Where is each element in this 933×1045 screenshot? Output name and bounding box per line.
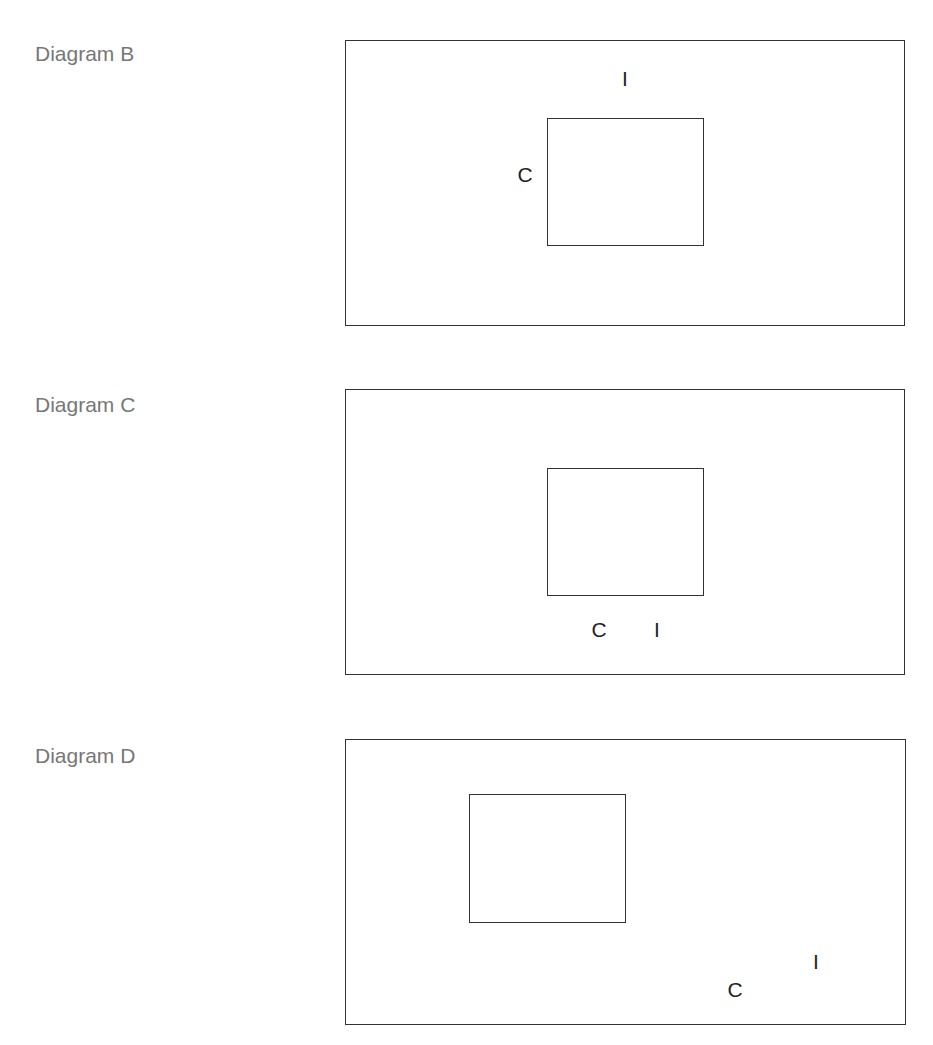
diagram-b-marker-c: C bbox=[517, 164, 532, 185]
diagram-b-label: Diagram B bbox=[35, 43, 134, 64]
diagram-b-inner-rectangle bbox=[547, 118, 704, 246]
diagram-d-marker-c: C bbox=[727, 979, 742, 1000]
diagram-d-marker-i: I bbox=[813, 951, 819, 972]
diagram-c-marker-i: I bbox=[654, 619, 660, 640]
diagram-d-inner-rectangle bbox=[469, 794, 626, 923]
diagram-b-marker-i: I bbox=[622, 68, 628, 89]
diagram-c-inner-rectangle bbox=[547, 468, 704, 596]
diagram-c-label: Diagram C bbox=[35, 394, 135, 415]
diagram-c-marker-c: C bbox=[591, 619, 606, 640]
diagram-d-label: Diagram D bbox=[35, 745, 135, 766]
